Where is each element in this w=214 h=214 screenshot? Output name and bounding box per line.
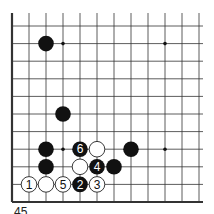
- white-stone: [89, 141, 105, 157]
- move-number-label: 3: [94, 178, 101, 192]
- black-stone: 4: [89, 159, 105, 175]
- star-point-icon: [163, 42, 167, 46]
- white-stone: 5: [55, 177, 71, 193]
- black-stone: [55, 106, 71, 122]
- move-number-label: 4: [94, 160, 101, 174]
- black-stone: [106, 159, 122, 175]
- black-stone: [123, 141, 139, 157]
- white-stone: [38, 177, 54, 193]
- move-number-label: 6: [77, 142, 84, 156]
- move-number-label: 2: [77, 178, 84, 192]
- white-stone: 3: [89, 177, 105, 193]
- black-stone: [38, 36, 54, 52]
- move-number-label: 1: [26, 178, 33, 192]
- white-stone: [72, 159, 88, 175]
- star-point-icon: [61, 147, 65, 151]
- move-number-label: 5: [60, 178, 67, 192]
- black-stone: 2: [72, 177, 88, 193]
- go-board: 641523: [0, 0, 214, 214]
- white-stone: 1: [21, 177, 37, 193]
- black-stone: 6: [72, 141, 88, 157]
- star-point-icon: [163, 147, 167, 151]
- diagram-caption: 45: [14, 206, 27, 214]
- star-point-icon: [61, 42, 65, 46]
- black-stone: [38, 159, 54, 175]
- black-stone: [38, 141, 54, 157]
